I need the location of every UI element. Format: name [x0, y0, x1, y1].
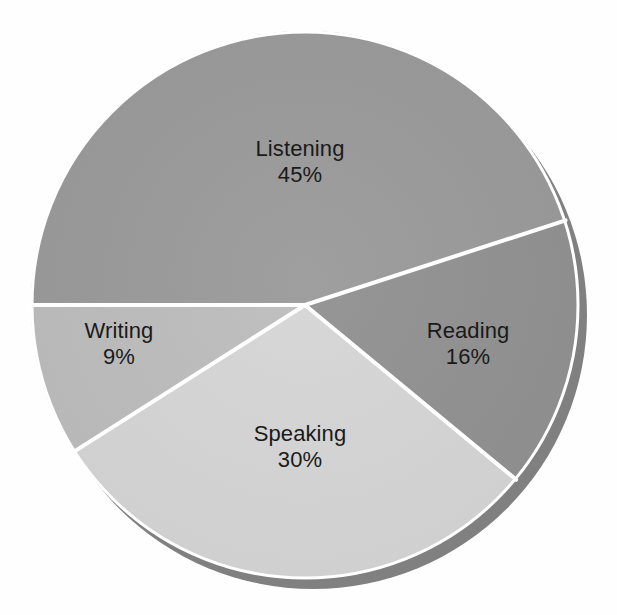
pie-chart-svg [0, 0, 617, 615]
pie-chart: Listening 45% Reading 16% Speaking 30% W… [0, 0, 617, 615]
